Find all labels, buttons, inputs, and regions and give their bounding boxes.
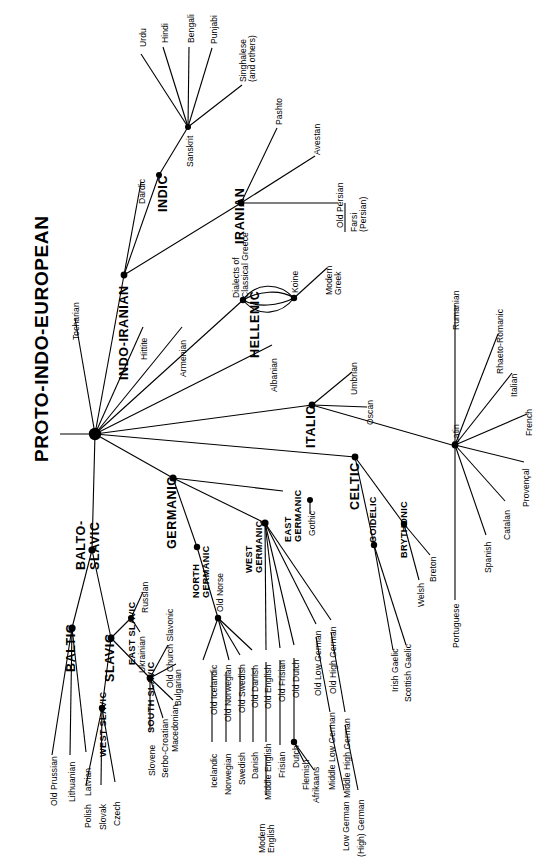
edge-old-norse-old-danish: [218, 618, 252, 650]
label-dialects-classical-greece: Dialects of Classical Greece: [232, 232, 250, 298]
label-italic: ITALIC: [305, 405, 318, 448]
language-family-tree-diagram: PROTO-INDO-EUROPEAN Tocharian INDO-IRANI…: [0, 0, 549, 866]
edge-goidelic-irish: [374, 545, 393, 650]
label-spanish: Spanish: [484, 542, 493, 573]
label-icelandic: Icelandic: [210, 754, 219, 788]
label-umbrian: Umbrian: [350, 362, 359, 395]
label-farsi: Farsi (Persian): [350, 197, 368, 232]
label-brythonic: BRYTHONIC: [400, 501, 410, 558]
label-scottish-gaelic: Scottish Gaelic: [404, 644, 413, 702]
label-indo-iranian: INDO-IRANIAN: [118, 285, 131, 380]
label-east-germanic: EAST GERMANIC: [284, 490, 304, 542]
edge-old-norse-old-swedish: [218, 618, 240, 655]
edge-root-italic: [95, 405, 312, 434]
label-old-norwegian: Old Norwegian: [224, 664, 233, 722]
label-germanic: GERMANIC: [166, 476, 179, 549]
edge-sanskrit-hindi: [163, 47, 188, 127]
label-south-slavic: SOUTH SLAVIC: [147, 662, 157, 733]
edge-sanskrit-singhalese: [188, 85, 242, 127]
label-serbo-croatian: Serbo-Croatian: [161, 719, 170, 778]
label-north-germanic: NORTH GERMANIC: [192, 546, 212, 598]
edge-goidelic-scottish: [374, 545, 406, 645]
label-lithuanian: Lithuanian: [68, 762, 77, 802]
label-old-swedish: Old Swedish: [238, 664, 247, 713]
label-gothic: Gothic: [308, 511, 317, 536]
edge-latin-rhaeto-romanic: [455, 334, 498, 445]
label-old-norse: Old Norse: [216, 573, 225, 612]
label-french: French: [525, 409, 534, 436]
label-old-frisian: Old Frisian: [278, 660, 287, 702]
edge-old-norse-old-icelandic: [203, 618, 218, 660]
label-portuguese: Portuguese: [452, 604, 461, 648]
label-punjabi: Punjabi: [210, 15, 219, 44]
label-old-icelandic: Old Icelandic: [210, 665, 219, 715]
edge-sanskrit-bengali: [188, 47, 189, 127]
label-singhalese: Singhalese (and others): [239, 35, 257, 82]
label-macedonian: Macedonian: [171, 705, 180, 752]
edge-italic-latin: [312, 405, 452, 445]
label-catalan: Catalan: [503, 510, 512, 540]
label-middle-high-german: Middle High German: [343, 718, 352, 798]
label-modern-greek: Modern Greek: [325, 266, 343, 295]
label-frisian: Frisian: [278, 752, 287, 778]
edge-indic-sanskrit: [159, 127, 188, 175]
edge-latin-french: [455, 414, 527, 445]
label-bengali: Bengali: [187, 14, 196, 43]
label-czech: Czech: [113, 801, 122, 826]
label-west-germanic: WEST GERMANIC: [245, 521, 265, 573]
edge-west-germanic-old-english: [265, 523, 266, 650]
label-old-low-german: Old Low German: [314, 630, 323, 696]
label-breton: Breton: [429, 556, 438, 582]
label-dutch: Dutch: [292, 745, 301, 768]
edge-latin-provencal: [455, 445, 524, 462]
page-title: PROTO-INDO-EUROPEAN: [32, 216, 52, 462]
node-celtic: [352, 454, 359, 461]
label-modern-english: Modern English: [258, 824, 276, 853]
label-swedish: Swedish: [238, 752, 247, 785]
label-old-english: Old English: [264, 664, 273, 709]
label-sanskrit: Sanskrit: [186, 135, 195, 167]
node-east-germanic: [307, 497, 313, 503]
node-proto-indo-european: [89, 428, 101, 440]
label-baltic: BALTIC: [65, 624, 78, 673]
label-russian: Russian: [141, 582, 150, 613]
edge-old-norse-old-norwegian: [218, 618, 229, 660]
label-slovak: Slovak: [99, 804, 108, 830]
label-oscan: Oscan: [366, 400, 375, 425]
label-bulgarian: Bulgarian: [174, 669, 183, 706]
label-rumanian: Rumanian: [452, 290, 461, 330]
label-armenian: Armenian: [179, 340, 188, 377]
tree-edges: [0, 0, 549, 866]
label-hittite: Hittite: [140, 338, 149, 360]
edge-ii-iranian: [124, 203, 241, 275]
node-indo-iranian: [121, 272, 128, 279]
label-slovene: Slovene: [148, 745, 157, 776]
node-sanskrit: [185, 124, 191, 130]
edge-germanic-east: [173, 478, 283, 491]
label-urdu: Urdu: [139, 28, 148, 47]
edge-latin-catalan: [455, 445, 505, 501]
edge-root-germanic: [95, 434, 173, 478]
label-west-slavic: WEST SLAVIC: [99, 692, 109, 757]
edge-sanskrit-punjabi: [188, 48, 212, 127]
label-balto-slavic: BALTO- SLAVIC: [75, 520, 102, 570]
label-old-danish: Old Danish: [251, 665, 260, 708]
label-slavic: SLAVIC: [104, 633, 117, 682]
edge-latin-italian: [455, 373, 512, 445]
label-dardic: Dardic: [138, 179, 147, 204]
node-koine: [291, 295, 297, 301]
label-irish-gaelic: Irish Gaelic: [391, 648, 400, 692]
label-old-prussian: Old Prussian: [50, 756, 59, 806]
label-albanian: Albanian: [270, 358, 279, 392]
node-old-norse: [215, 615, 221, 621]
label-old-high-german: Old High German: [329, 626, 338, 694]
label-flemish: Flemish: [302, 760, 311, 790]
label-hellenic: HELLENIC: [249, 291, 262, 358]
label-tocharian: Tocharian: [72, 302, 81, 340]
label-afrikaans: Afrikaans: [312, 767, 321, 803]
edge-sanskrit-urdu: [141, 54, 188, 127]
label-provencal: Provençal: [522, 468, 531, 507]
label-celtic: CELTIC: [349, 462, 362, 510]
label-old-persian: Old Persian: [336, 182, 345, 228]
label-high-german: (High) German: [357, 799, 366, 857]
